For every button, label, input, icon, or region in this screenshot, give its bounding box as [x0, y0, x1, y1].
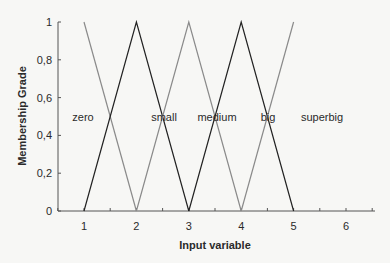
x-tick-label: 5 — [291, 220, 297, 232]
set-labels: zerosmallmediumbigsuperbig — [72, 111, 343, 123]
label-small: small — [151, 111, 177, 123]
x-tick-label: 6 — [343, 220, 349, 232]
membership-function-chart: 00,20,40,60,81123456 zerosmallmediumbigs… — [0, 0, 390, 263]
y-tick-label: 0,8 — [37, 54, 52, 66]
x-axis-title: Input variable — [179, 239, 251, 251]
y-tick-label: 0,2 — [37, 167, 52, 179]
x-tick-label: 4 — [238, 220, 244, 232]
x-tick-label: 2 — [133, 220, 139, 232]
y-tick-label: 0 — [46, 205, 52, 217]
x-tick-label: 3 — [186, 220, 192, 232]
y-tick-label: 1 — [46, 16, 52, 28]
label-superbig: superbig — [301, 111, 343, 123]
label-big: big — [261, 111, 276, 123]
y-tick-label: 0,4 — [37, 129, 52, 141]
x-tick-label: 1 — [81, 220, 87, 232]
y-axis-title: Membership Grade — [16, 66, 28, 166]
label-medium: medium — [197, 111, 236, 123]
label-zero: zero — [72, 111, 93, 123]
y-tick-label: 0,6 — [37, 92, 52, 104]
